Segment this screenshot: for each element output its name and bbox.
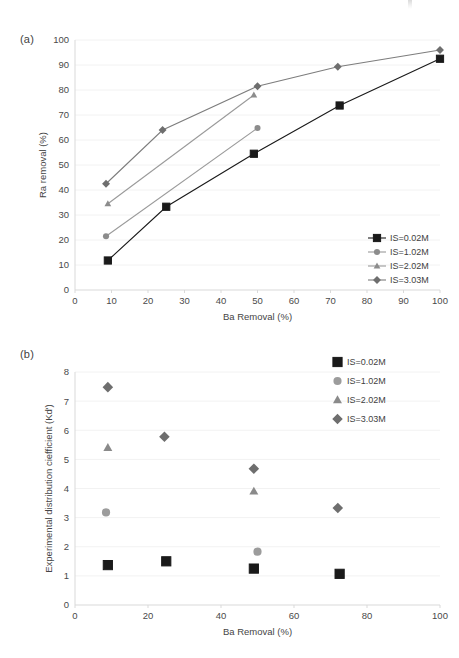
x-tick-label: 90: [398, 295, 409, 306]
y-tick-label: 20: [58, 234, 69, 245]
data-point-circle: [102, 508, 110, 516]
data-point-square: [249, 564, 258, 573]
x-tick-label: 0: [72, 610, 77, 621]
legend-marker-circle: [374, 249, 380, 255]
x-tick-label: 40: [216, 295, 227, 306]
legend-label: IS=3.03M: [390, 275, 429, 285]
data-point-square: [104, 257, 111, 264]
legend-marker-diamond: [332, 414, 343, 425]
x-tick-label: 30: [179, 295, 190, 306]
legend-marker-square: [333, 357, 342, 366]
data-point-square: [436, 55, 443, 62]
data-point-diamond: [254, 82, 262, 90]
y-tick-label: 70: [58, 109, 69, 120]
y-tick-label: 3: [64, 512, 69, 523]
y-axis-title: Experimental distribution ciefficient (K…: [43, 404, 54, 573]
data-point-triangle: [250, 91, 257, 97]
legend-label: IS=2.02M: [347, 395, 386, 405]
legend-label: IS=1.02M: [390, 247, 429, 257]
y-tick-label: 60: [58, 134, 69, 145]
x-tick-label: 60: [289, 610, 300, 621]
chart-b-svg: 012345678020406080100Ba Removal (%)Exper…: [0, 330, 459, 658]
y-tick-label: 2: [64, 541, 69, 552]
panel-a-label: (a): [20, 33, 34, 45]
chart-a-svg: 0102030405060708090100010203040506070809…: [0, 0, 459, 340]
series-line: [108, 95, 254, 204]
legend-label: IS=1.02M: [347, 376, 386, 386]
y-tick-label: 5: [64, 454, 69, 465]
legend-marker-square: [373, 234, 380, 241]
data-point-square: [103, 560, 112, 569]
x-tick-label: 50: [252, 295, 263, 306]
x-tick-label: 0: [72, 295, 77, 306]
data-point-circle: [253, 548, 261, 556]
data-point-square: [162, 557, 171, 566]
data-point-diamond: [334, 63, 342, 71]
data-point-circle: [103, 233, 109, 239]
x-tick-label: 80: [362, 295, 373, 306]
y-tick-label: 50: [58, 159, 69, 170]
y-tick-label: 7: [64, 396, 69, 407]
data-point-square: [163, 203, 170, 210]
legend-label: IS=0.02M: [390, 233, 429, 243]
y-tick-label: 40: [58, 184, 69, 195]
data-point-diamond: [436, 46, 444, 54]
x-tick-label: 60: [289, 295, 300, 306]
x-axis-title: Ba Removal (%): [223, 311, 292, 322]
y-tick-label: 6: [64, 425, 69, 436]
y-tick-label: 100: [53, 34, 69, 45]
x-tick-label: 100: [432, 295, 448, 306]
data-point-triangle: [104, 200, 111, 206]
legend-marker-triangle: [333, 395, 342, 403]
x-tick-label: 40: [216, 610, 227, 621]
data-point-square: [335, 569, 344, 578]
x-tick-label: 10: [106, 295, 117, 306]
x-axis-title: Ba Removal (%): [223, 626, 292, 637]
series-line: [106, 128, 257, 236]
data-point-diamond: [159, 431, 170, 442]
y-tick-label: 1: [64, 570, 69, 581]
x-tick-label: 70: [325, 295, 336, 306]
x-tick-label: 20: [143, 610, 154, 621]
chart-panel-a: (a) 010203040506070809010001020304050607…: [0, 0, 459, 340]
legend-label: IS=0.02M: [347, 357, 386, 367]
chart-panel-b: (b) 012345678020406080100Ba Removal (%)E…: [0, 330, 459, 658]
x-tick-label: 80: [362, 610, 373, 621]
y-tick-label: 30: [58, 209, 69, 220]
panel-b-label: (b): [20, 348, 34, 360]
data-point-diamond: [249, 463, 260, 474]
data-point-triangle: [249, 487, 258, 495]
y-tick-label: 4: [64, 483, 69, 494]
legend-label: IS=3.03M: [347, 414, 386, 424]
legend-marker-diamond: [373, 276, 381, 284]
y-tick-label: 80: [58, 84, 69, 95]
data-point-triangle: [103, 443, 112, 451]
data-point-diamond: [333, 503, 344, 514]
series-line: [106, 50, 440, 184]
y-tick-label: 10: [58, 259, 69, 270]
y-tick-label: 0: [64, 284, 69, 295]
data-point-square: [336, 102, 343, 109]
y-axis-title: Ra removal (%): [37, 132, 48, 198]
x-tick-label: 20: [143, 295, 154, 306]
data-point-circle: [254, 125, 260, 131]
data-point-diamond: [103, 382, 114, 393]
figure-container: (a) 010203040506070809010001020304050607…: [0, 0, 459, 658]
y-tick-label: 90: [58, 59, 69, 70]
series-line: [108, 59, 440, 261]
y-tick-label: 8: [64, 366, 69, 377]
x-tick-label: 100: [432, 610, 448, 621]
legend-marker-circle: [333, 377, 341, 385]
legend-label: IS=2.02M: [390, 261, 429, 271]
data-point-square: [250, 150, 257, 157]
y-tick-label: 0: [64, 599, 69, 610]
